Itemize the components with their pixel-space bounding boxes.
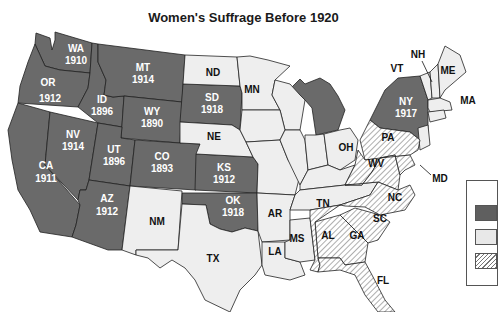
svg-text:OK: OK — [226, 195, 242, 206]
state-mt[interactable] — [98, 44, 185, 102]
legend-swatch-partial-suffrage — [475, 253, 497, 269]
svg-text:1896: 1896 — [103, 156, 126, 167]
svg-text:UT: UT — [107, 144, 120, 155]
label-wv: WV — [368, 158, 384, 169]
svg-text:MT: MT — [136, 62, 150, 73]
svg-text:SD: SD — [205, 92, 219, 103]
svg-text:OR: OR — [41, 77, 57, 88]
svg-text:1912: 1912 — [213, 174, 236, 185]
label-tx: TX — [207, 253, 220, 264]
label-ar: AR — [268, 208, 283, 219]
svg-text:1910: 1910 — [65, 55, 88, 66]
state-ia[interactable] — [240, 110, 285, 142]
label-nh: NH — [411, 49, 425, 60]
state-ct-ri[interactable] — [428, 110, 446, 122]
svg-text:1914: 1914 — [132, 74, 155, 85]
svg-text:NY: NY — [399, 96, 413, 107]
map-legend — [466, 180, 498, 286]
label-sc: SC — [373, 213, 387, 224]
legend-swatch-full-suffrage — [475, 205, 497, 221]
svg-text:ID: ID — [97, 94, 107, 105]
label-nc: NC — [388, 192, 402, 203]
svg-text:1912: 1912 — [39, 93, 62, 104]
svg-text:1911: 1911 — [35, 173, 57, 184]
svg-text:CO: CO — [155, 151, 170, 162]
label-nm: NM — [149, 216, 165, 227]
svg-text:1918: 1918 — [201, 104, 224, 115]
legend-swatch-no-suffrage — [475, 229, 497, 245]
svg-text:1914: 1914 — [62, 141, 85, 152]
svg-text:1917: 1917 — [395, 108, 418, 119]
label-nd: ND — [206, 67, 220, 78]
svg-text:KS: KS — [217, 162, 231, 173]
svg-text:CA: CA — [39, 160, 53, 171]
label-ga: GA — [350, 230, 365, 241]
label-md: MD — [432, 173, 448, 184]
label-pa: PA — [381, 132, 394, 143]
label-ne: NE — [207, 131, 221, 142]
label-vt: VT — [391, 63, 404, 74]
svg-text:WA: WA — [68, 43, 84, 54]
label-la: LA — [268, 246, 281, 257]
label-tn: TN — [316, 198, 329, 209]
label-ms: MS — [290, 233, 305, 244]
md-leader-line — [420, 165, 431, 175]
label-ma: MA — [460, 95, 476, 106]
svg-text:1893: 1893 — [151, 163, 174, 174]
label-fl: FL — [377, 275, 389, 286]
svg-text:1912: 1912 — [96, 206, 119, 217]
label-me: ME — [441, 65, 456, 76]
state-nj[interactable] — [418, 125, 430, 150]
svg-text:NV: NV — [66, 129, 80, 140]
label-mn: MN — [244, 84, 260, 95]
label-al: AL — [321, 230, 334, 241]
svg-text:WY: WY — [144, 106, 160, 117]
state-ma[interactable] — [428, 98, 452, 112]
svg-text:AZ: AZ — [100, 193, 113, 204]
svg-text:1890: 1890 — [141, 118, 164, 129]
svg-text:1896: 1896 — [91, 106, 114, 117]
svg-text:1918: 1918 — [222, 207, 245, 218]
label-oh: OH — [339, 142, 354, 153]
